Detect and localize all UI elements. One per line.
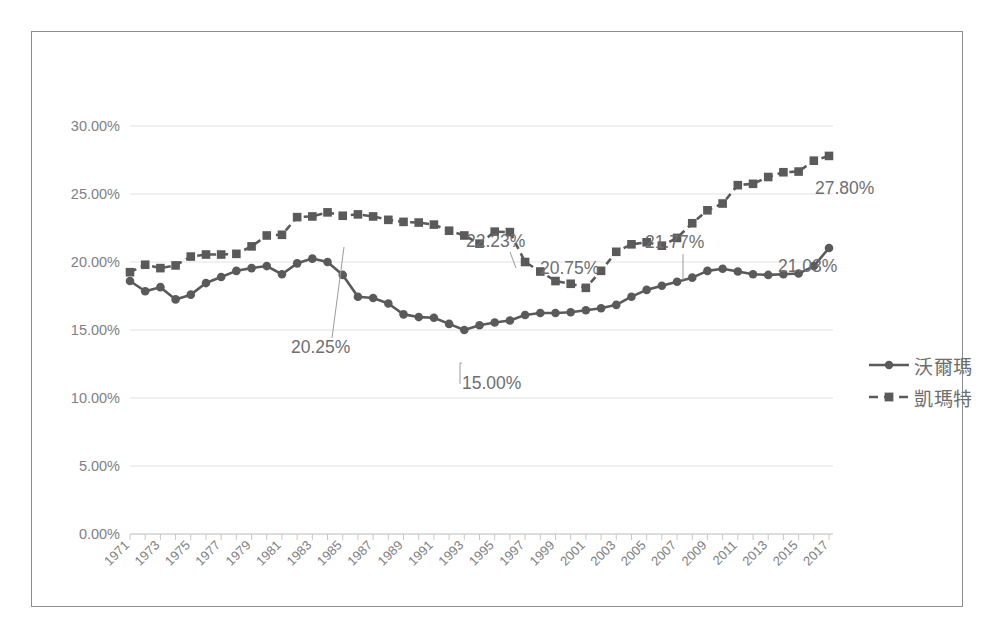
data-point-marker	[186, 290, 195, 299]
data-point-marker	[673, 277, 682, 286]
data-point-marker	[825, 152, 834, 161]
data-point-marker	[460, 326, 469, 335]
data-point-marker	[202, 279, 211, 288]
legend-label-kmart: 凱瑪特	[914, 384, 973, 411]
data-point-marker	[658, 282, 667, 291]
data-point-marker	[278, 270, 287, 279]
data-point-marker	[202, 250, 211, 259]
annotation-leader-line	[332, 247, 344, 338]
x-axis-tick-label: 1991	[405, 538, 436, 569]
x-axis-tick-label: 2015	[770, 538, 801, 569]
data-point-marker	[718, 199, 727, 208]
data-point-marker	[612, 301, 621, 310]
data-point-marker	[338, 211, 347, 220]
data-point-marker	[749, 270, 758, 279]
data-point-marker	[506, 316, 515, 325]
x-axis-tick-label: 2003	[587, 538, 618, 569]
data-point-marker	[688, 219, 697, 228]
data-point-marker	[551, 309, 560, 318]
data-point-marker	[779, 168, 788, 177]
x-axis-tick-label: 1989	[375, 538, 406, 569]
data-point-marker	[430, 313, 439, 322]
data-point-marker	[794, 167, 803, 176]
data-point-marker	[399, 218, 408, 227]
legend-key-dashed-square-icon	[868, 390, 910, 404]
data-point-marker	[825, 244, 834, 253]
data-point-marker	[566, 308, 575, 317]
data-point-marker	[262, 262, 271, 271]
chart-frame: 0.00%5.00%10.00%15.00%20.00%25.00%30.00%…	[31, 31, 963, 607]
data-point-marker	[186, 252, 195, 261]
data-point-marker	[323, 208, 332, 217]
data-label: 21.03%	[778, 256, 837, 276]
data-point-marker	[217, 250, 226, 259]
data-point-marker	[369, 294, 378, 303]
chart-plot-area: 0.00%5.00%10.00%15.00%20.00%25.00%30.00%…	[32, 32, 964, 608]
legend-item-kmart[interactable]: 凱瑪特	[868, 381, 990, 413]
data-point-marker	[156, 264, 165, 273]
x-axis-tick-label: 1985	[314, 538, 345, 569]
data-point-marker	[308, 254, 317, 263]
data-point-marker	[566, 279, 575, 288]
data-point-marker	[384, 216, 393, 225]
data-point-marker	[308, 212, 317, 221]
data-point-marker	[293, 259, 302, 268]
x-axis-tick-label: 1975	[162, 538, 193, 569]
legend-label-walmart: 沃爾瑪	[914, 352, 973, 379]
data-point-marker	[597, 304, 606, 313]
data-point-marker	[247, 264, 256, 273]
data-point-marker	[430, 220, 439, 229]
data-point-marker	[521, 311, 530, 320]
data-point-marker	[642, 286, 651, 295]
data-point-marker	[323, 258, 332, 267]
data-point-marker	[627, 240, 636, 249]
data-point-marker	[445, 226, 454, 235]
data-point-marker	[126, 277, 135, 286]
data-point-marker	[490, 318, 499, 327]
data-point-marker	[551, 277, 560, 286]
x-axis-tick-label: 1973	[131, 538, 162, 569]
x-axis-tick-label: 1999	[527, 538, 558, 569]
data-point-marker	[232, 267, 241, 276]
data-point-marker	[582, 306, 591, 315]
data-label: 15.00%	[462, 373, 521, 393]
y-axis-tick-label: 5.00%	[79, 458, 120, 474]
data-point-marker	[703, 267, 712, 276]
legend-item-walmart[interactable]: 沃爾瑪	[868, 349, 990, 381]
x-axis-tick-label: 2009	[678, 538, 709, 569]
data-point-marker	[399, 310, 408, 319]
x-axis-tick-label: 1993	[435, 538, 466, 569]
data-point-marker	[688, 273, 697, 282]
data-point-marker	[764, 173, 773, 182]
data-point-marker	[414, 313, 423, 322]
x-axis-tick-label: 1987	[344, 538, 375, 569]
data-point-marker	[354, 210, 363, 219]
data-point-marker	[369, 212, 378, 221]
data-point-marker	[627, 292, 636, 301]
data-point-marker	[171, 261, 180, 270]
legend-key-solid-circle-icon	[868, 358, 910, 372]
series-line-walmart	[130, 248, 829, 330]
data-point-marker	[354, 292, 363, 301]
data-point-marker	[734, 181, 743, 190]
y-axis-tick-label: 25.00%	[71, 186, 120, 202]
data-point-marker	[810, 156, 819, 165]
y-axis-tick-label: 20.00%	[71, 254, 120, 270]
chart-title	[0, 0, 991, 12]
data-point-marker	[764, 271, 773, 280]
chart-legend: 沃爾瑪 凱瑪特	[868, 347, 990, 415]
data-point-marker	[475, 321, 484, 330]
data-point-marker	[734, 267, 743, 276]
data-point-marker	[612, 248, 621, 257]
data-point-marker	[232, 250, 241, 259]
data-point-marker	[171, 295, 180, 304]
data-point-marker	[141, 260, 150, 269]
data-point-marker	[217, 273, 226, 282]
x-axis-tick-label: 1981	[253, 538, 284, 569]
data-point-marker	[384, 299, 393, 308]
x-axis-tick-label: 2013	[739, 538, 770, 569]
y-axis-tick-label: 0.00%	[79, 526, 120, 542]
x-axis-tick-label: 1995	[466, 538, 497, 569]
x-axis-tick-label: 1977	[192, 538, 223, 569]
data-label: 20.75%	[540, 258, 599, 278]
